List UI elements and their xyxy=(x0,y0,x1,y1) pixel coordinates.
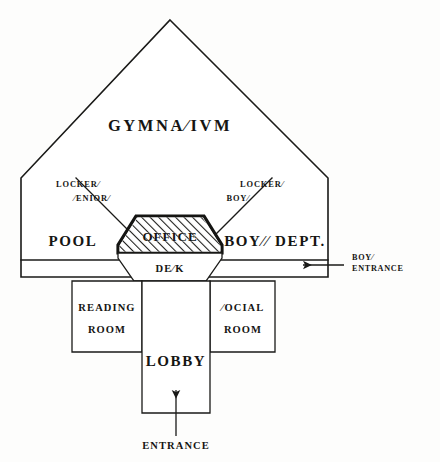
pool-label: POOL xyxy=(49,233,98,249)
lockers-seniors-label-line1: LOCKER⁄ xyxy=(56,180,101,189)
lockers-boys-label-line2: BOY⁄ xyxy=(226,194,250,203)
lockers-boys-label-line1: LOCKER⁄ xyxy=(240,180,285,189)
social-room-label-line1: ⁄OCIAL xyxy=(220,302,265,313)
reading-room-label-line1: READING xyxy=(78,302,135,313)
reading-room-outline xyxy=(72,281,142,352)
room-reading[interactable]: READING ROOM xyxy=(72,281,142,352)
room-office[interactable]: OFFICE xyxy=(118,216,222,253)
social-room-label-line2: ROOM xyxy=(224,324,262,335)
lockers-seniors-label-line2: ⁄ENIOR⁄ xyxy=(72,194,111,203)
floor-plan-drawing: GYMNA⁄IVM LOCKER⁄ ⁄ENIOR⁄ POOL LOCKER⁄ B… xyxy=(0,0,440,462)
boys-dept-label: BOY⁄⁄ DEPT. xyxy=(224,233,326,249)
gymnasium-label: GYMNA⁄IVM xyxy=(108,116,232,135)
office-label: OFFICE xyxy=(142,229,197,244)
social-room-outline xyxy=(210,281,275,352)
room-social[interactable]: ⁄OCIAL ROOM xyxy=(210,281,275,352)
desk-label: DE⁄K xyxy=(156,263,185,274)
floor-plan-canvas: GYMNA⁄IVM LOCKER⁄ ⁄ENIOR⁄ POOL LOCKER⁄ B… xyxy=(0,0,440,462)
reading-room-label-line2: ROOM xyxy=(88,324,126,335)
boys-entrance-label-line2: ENTRANCE xyxy=(352,264,404,273)
area-desk[interactable]: DE⁄K xyxy=(118,253,222,281)
boys-entrance-label-line1: BOY⁄ xyxy=(352,253,375,262)
main-entrance-label: ENTRANCE xyxy=(142,440,210,451)
lobby-label: LOBBY xyxy=(146,353,207,369)
